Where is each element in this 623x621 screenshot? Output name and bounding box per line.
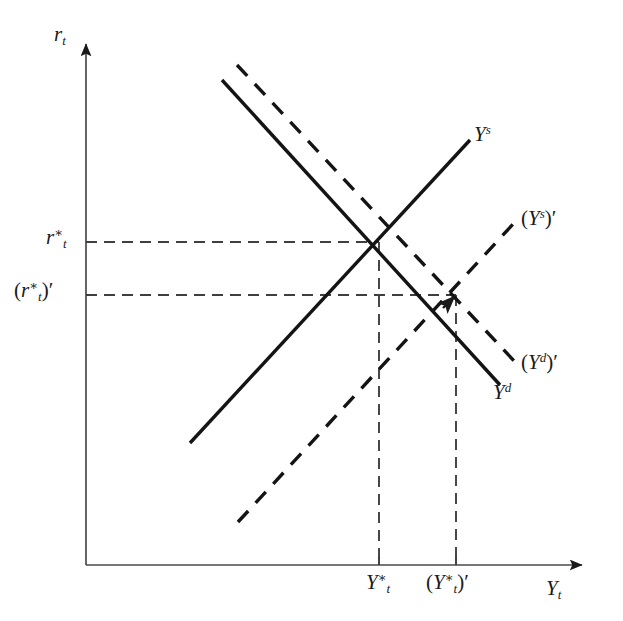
x-tick-label-original-equilibrium: Y∗t: [366, 572, 390, 593]
guide-lines: [86, 242, 456, 565]
demand-curve-original: [222, 80, 500, 385]
supply-curve-original-label: Ys: [474, 124, 491, 145]
supply-curve-original: [190, 140, 470, 443]
x-tick-label-new-equilibrium: (Y∗t)′: [426, 572, 469, 593]
figure-canvas: [0, 0, 623, 621]
y-axis-label: rt: [54, 24, 66, 45]
x-axis-label: Yt: [546, 578, 561, 599]
y-tick-label-original-equilibrium: r∗t: [46, 227, 67, 248]
new-equilibrium-pointer-arrow: [443, 296, 455, 308]
demand-curve-shifted: [237, 65, 516, 363]
supply-demand-figure: rt Yt Ys (Ys)′ Yd (Yd)′ r∗t (r∗t)′ Y∗t (…: [0, 0, 623, 621]
y-tick-label-new-equilibrium: (r∗t)′: [14, 280, 53, 301]
supply-curve-shifted: [238, 222, 515, 522]
demand-curve-original-label: Yd: [493, 382, 511, 403]
x-axis-ticks: [379, 557, 456, 565]
demand-curve-shifted-label: (Yd)′: [521, 352, 558, 373]
supply-curve-shifted-label: (Ys)′: [521, 208, 556, 229]
